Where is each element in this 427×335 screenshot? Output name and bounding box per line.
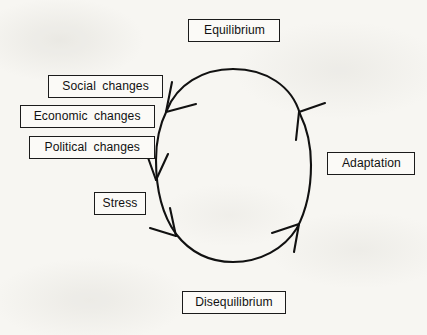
arc-left-upper bbox=[156, 110, 167, 160]
arrowhead-top-left bbox=[166, 82, 196, 112]
arc-right bbox=[297, 114, 311, 228]
cycle-diagram: Equilibrium Social changes Economic chan… bbox=[0, 0, 427, 335]
arc-bottom bbox=[176, 228, 297, 262]
arrowhead-top-right bbox=[296, 103, 325, 140]
node-adaptation: Adaptation bbox=[327, 152, 415, 175]
node-economic-changes-label: Economic changes bbox=[34, 110, 141, 123]
node-social-changes-label: Social changes bbox=[62, 80, 149, 93]
node-social-changes: Social changes bbox=[48, 75, 163, 98]
node-equilibrium-label: Equilibrium bbox=[203, 24, 264, 37]
node-economic-changes: Economic changes bbox=[20, 105, 155, 128]
node-stress-label: Stress bbox=[103, 197, 138, 210]
node-disequilibrium: Disequilibrium bbox=[182, 291, 286, 314]
node-political-changes-label: Political changes bbox=[44, 141, 140, 154]
node-adaptation-label: Adaptation bbox=[342, 157, 401, 170]
arrowhead-bottom-right bbox=[272, 224, 299, 252]
node-political-changes: Political changes bbox=[29, 136, 155, 159]
node-equilibrium: Equilibrium bbox=[188, 19, 280, 42]
arrowhead-bottom-left bbox=[150, 208, 176, 236]
node-disequilibrium-label: Disequilibrium bbox=[195, 296, 273, 309]
node-stress: Stress bbox=[94, 192, 146, 215]
